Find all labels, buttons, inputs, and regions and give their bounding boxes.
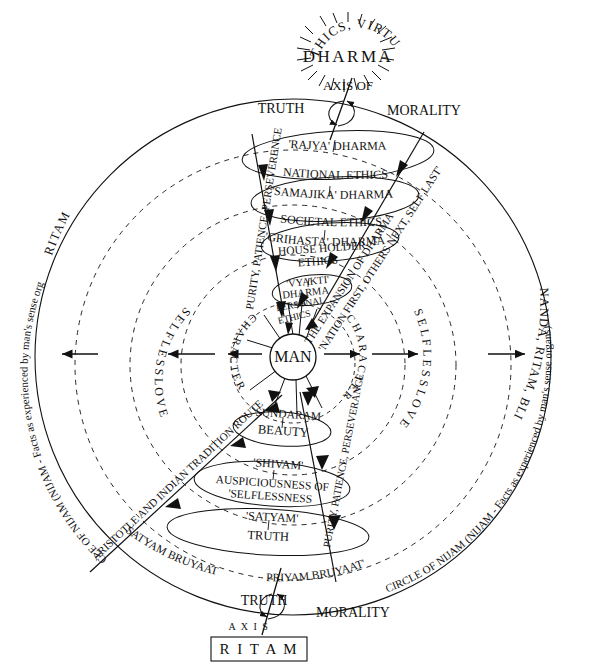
outer-arc-right-long: CIRCLE OF NIJAM (NIJAM - Facts as experi… [384, 325, 554, 594]
ring-label-character-left: C H A R A C T E R [228, 312, 260, 392]
label-shivam: 'SHIVAM' [253, 455, 304, 472]
label-rajya-dharma: 'RAJYA' DHARMA [288, 137, 387, 153]
title-dharma: DHARMA [303, 47, 394, 66]
center-label: MAN [274, 348, 312, 365]
label-truth-ellipse: TRUTH [247, 528, 289, 544]
label-house-holder-ethics2: ETHICS [297, 254, 338, 269]
top-truth-label: TRUTH [258, 101, 305, 116]
label-purity-patience-perseverance-lower: PURITY, PATIENCE, PERSEVERANCE [321, 373, 366, 549]
outer-arc-left-ritam: RITAM [41, 209, 73, 257]
ring-label-selfless-love-right: S E L F L E S S L O V E [397, 307, 434, 431]
top-axis-loop-left [329, 101, 343, 125]
label-beauty: BEAUTY [258, 422, 310, 440]
bottom-truth-label: TRUTH [241, 593, 288, 608]
outer-arc-left-long: CIRCLE OF NIJAM (NIJAM - Facts as experi… [0, 0, 109, 566]
bottom-axis-label: A X I S [229, 621, 270, 632]
top-axis-of-label: AXIS OF [323, 78, 373, 93]
ritam-box-label: R I T A M [219, 641, 298, 657]
bottom-arc-satyam-bruyaat: SATYAM BRUYAAT [124, 524, 219, 577]
label-samajika-dharma: 'SAMAJIKA' DHARMA [271, 184, 393, 202]
top-morality-label: MORALITY [387, 103, 461, 118]
label-satyam: 'SATYAM' [246, 509, 299, 526]
cone-right-upper [308, 132, 424, 330]
label-sundaram: SUNDARAM [255, 406, 322, 423]
dharma-diagram: ETHICS, VIRTUE DHARMA AXIS OF TRUTH MORA… [0, 0, 596, 666]
label-national-ethics: NATIONAL ETHICS [282, 165, 388, 182]
bottom-morality-label: MORALITY [316, 605, 390, 620]
